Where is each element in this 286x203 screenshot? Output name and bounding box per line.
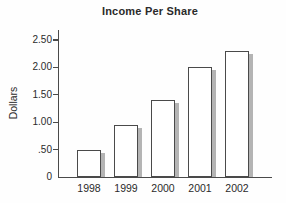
bar-1998 xyxy=(77,150,101,177)
bar-2002 xyxy=(225,51,249,177)
y-tick-label: 2.00 xyxy=(20,61,52,72)
y-tick-mark xyxy=(53,149,58,150)
x-axis-line xyxy=(58,177,272,178)
chart-title: Income Per Share xyxy=(14,5,286,17)
y-tick-mark xyxy=(53,39,58,40)
x-tick-label: 1999 xyxy=(107,182,145,194)
y-axis-label: Dollars xyxy=(7,68,21,138)
x-tick-label: 1998 xyxy=(70,182,108,194)
y-axis-line xyxy=(58,30,59,177)
y-tick-mark xyxy=(53,94,58,95)
x-tick-label: 2000 xyxy=(144,182,182,194)
y-tick-label: .50 xyxy=(20,144,52,155)
income-per-share-bar-chart: Income Per Share Dollars 0.501.001.502.0… xyxy=(0,0,286,203)
y-tick-label: 0 xyxy=(20,171,52,182)
bar-2001 xyxy=(188,67,212,177)
y-tick-mark xyxy=(53,67,58,68)
bar-1999 xyxy=(114,125,138,177)
y-tick-mark xyxy=(53,122,58,123)
y-tick-label: 1.00 xyxy=(20,116,52,127)
y-tick-label: 1.50 xyxy=(20,89,52,100)
x-tick-label: 2001 xyxy=(181,182,219,194)
x-tick-label: 2002 xyxy=(218,182,256,194)
y-tick-label: 2.50 xyxy=(20,34,52,45)
bar-2000 xyxy=(151,100,175,177)
